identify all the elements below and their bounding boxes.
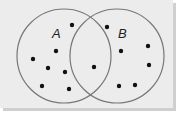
element-dot-b-only	[133, 83, 137, 87]
element-dots	[31, 23, 151, 91]
element-dot-a-only	[70, 23, 74, 27]
element-dot-b-only	[117, 84, 121, 88]
element-dot-a-and-b	[92, 65, 96, 69]
element-dot-a-only	[31, 57, 35, 61]
set-a-label: A	[51, 26, 61, 41]
element-dot-b-only	[147, 63, 151, 67]
element-dot-a-only	[63, 70, 67, 74]
element-dot-b-only	[146, 44, 150, 48]
element-dot-a-only	[40, 84, 44, 88]
venn-diagram: A B	[0, 0, 180, 114]
element-dot-a-only	[46, 66, 50, 70]
set-a-circle	[17, 9, 111, 103]
element-dot-b-only	[105, 25, 109, 29]
element-dot-b-only	[119, 49, 123, 53]
element-dot-a-only	[54, 49, 58, 53]
element-dot-a-only	[67, 87, 71, 91]
set-b-label: B	[118, 26, 127, 41]
set-b-circle	[70, 9, 164, 103]
